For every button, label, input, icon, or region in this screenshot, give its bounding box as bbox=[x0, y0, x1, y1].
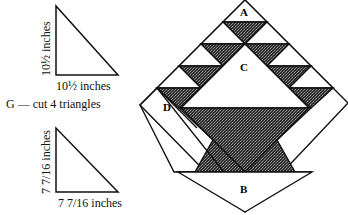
basket-block-diagram bbox=[140, 0, 348, 212]
large-triangle-base-label: 10½ inches bbox=[56, 80, 111, 92]
cut-instruction: G — cut 4 triangles bbox=[6, 98, 101, 110]
template-triangle-large bbox=[56, 6, 118, 75]
label-d: D bbox=[163, 101, 171, 113]
small-triangle-height-label: 7 7/16 inches bbox=[40, 130, 52, 194]
label-b: B bbox=[240, 183, 248, 195]
small-triangle-base-label: 7 7/16 inches bbox=[58, 197, 122, 209]
template-triangle-small bbox=[56, 128, 118, 192]
label-c: C bbox=[240, 61, 248, 73]
large-triangle-height-label: 10½ inches bbox=[40, 21, 52, 76]
label-a: A bbox=[240, 6, 248, 18]
